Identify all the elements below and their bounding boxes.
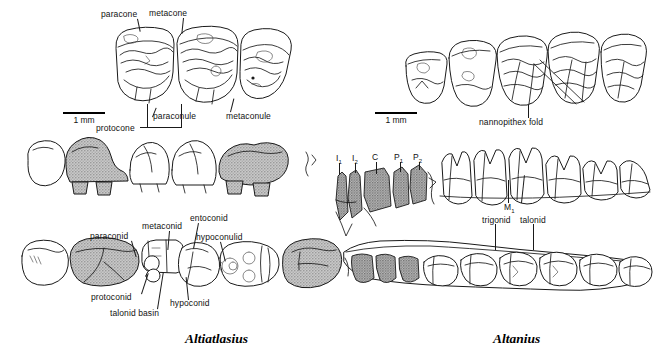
- leader-hypoconid: [186, 277, 189, 300]
- leader-protocone-v: [181, 104, 182, 128]
- leader-nannopithex-fold: [528, 105, 529, 118]
- label-paracone: paracone: [101, 10, 137, 19]
- scale-bar-left-line: [63, 112, 105, 114]
- label-metaconid: metaconid: [142, 222, 182, 231]
- leader-m1-left: [508, 180, 509, 203]
- leader-protocone-v2: [147, 104, 148, 127]
- leader-p2: [419, 162, 420, 170]
- label-paraconule: paraconule: [153, 112, 196, 121]
- label-talonid-basin: talonid basin: [110, 309, 159, 318]
- label-tooth-p1: P1: [394, 153, 403, 166]
- scale-bar-right-line: [375, 112, 417, 114]
- leader-metacone: [181, 18, 184, 34]
- taxon-name-left: Altiatlasius: [185, 331, 248, 347]
- leader-trigonid: [495, 224, 496, 250]
- scale-bar-right: 1 mm: [375, 112, 417, 125]
- left-upper-cheek-teeth-buccal: [28, 137, 316, 196]
- leader-paracone: [137, 19, 141, 32]
- label-trigonid: trigonid: [482, 216, 511, 225]
- leader-talonid-basin: [157, 272, 164, 309]
- leader-i2: [355, 163, 356, 173]
- leader-paraconid: [131, 241, 137, 258]
- leader-hypoconulid: [220, 242, 226, 262]
- leader-protoconid: [141, 273, 149, 294]
- left-upper-molars-oblique: [116, 26, 291, 104]
- leader-talonid: [533, 224, 534, 250]
- label-tooth-m1: M1: [504, 203, 515, 216]
- leader-p1: [400, 162, 401, 172]
- label-protoconid: protoconid: [91, 293, 132, 302]
- scale-bar-left: 1 mm: [63, 112, 105, 125]
- right-mandible-occlusal: [344, 240, 652, 290]
- label-hypoconid: hypoconid: [170, 299, 210, 308]
- label-paraconid: paraconid: [90, 232, 128, 241]
- leader-protocone-h: [140, 127, 182, 128]
- right-lower-molars-oblique: [406, 32, 647, 106]
- label-metaconule: metaconule: [226, 112, 271, 121]
- leader-i1: [339, 163, 340, 175]
- scale-bar-left-caption: 1 mm: [63, 115, 105, 125]
- label-nannopithex-fold: nannopithex fold: [479, 118, 543, 127]
- label-metacone: metacone: [149, 9, 187, 18]
- left-lower-molars-occlusal: [22, 238, 342, 288]
- scale-bar-right-caption: 1 mm: [375, 115, 417, 125]
- label-tooth-p2: P2: [413, 153, 422, 166]
- tooth-illustrations: [0, 0, 657, 357]
- label-protocone: protocone: [96, 124, 135, 133]
- label-hypoconulid: hypoconulid: [196, 233, 242, 242]
- leader-c: [376, 162, 377, 174]
- label-tooth-c: C: [372, 153, 378, 162]
- leader-m1-right: [521, 175, 525, 203]
- label-entoconid: entoconid: [190, 214, 228, 223]
- taxon-name-right: Altanius: [493, 331, 540, 347]
- leader-metaconid: [167, 231, 170, 250]
- figure-canvas: paracone metacone paraconule metaconule …: [0, 0, 657, 357]
